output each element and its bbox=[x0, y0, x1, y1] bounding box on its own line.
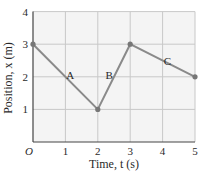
svg-text:1: 1 bbox=[63, 145, 69, 157]
x-axis-label: Time, t (s) bbox=[89, 157, 139, 171]
svg-text:3: 3 bbox=[127, 145, 133, 157]
svg-text:3: 3 bbox=[23, 38, 29, 50]
svg-text:1: 1 bbox=[23, 103, 29, 115]
svg-text:4: 4 bbox=[23, 6, 29, 18]
svg-text:4: 4 bbox=[160, 145, 166, 157]
svg-text:A: A bbox=[66, 69, 74, 81]
svg-text:5: 5 bbox=[192, 145, 198, 157]
svg-text:O: O bbox=[25, 145, 33, 157]
svg-text:B: B bbox=[105, 69, 112, 81]
y-axis-label: Position, x (m) bbox=[1, 42, 15, 114]
position-time-chart: O123451234 ABC Time, t (s) Position, x (… bbox=[0, 0, 203, 176]
svg-text:2: 2 bbox=[95, 145, 101, 157]
svg-text:C: C bbox=[164, 55, 171, 67]
svg-text:2: 2 bbox=[23, 71, 29, 83]
